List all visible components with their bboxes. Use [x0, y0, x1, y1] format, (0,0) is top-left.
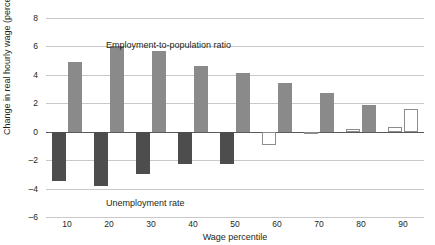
bar-unemployment-rate [94, 132, 109, 186]
bar-employment-population-ratio [68, 62, 83, 132]
bar-unemployment-rate [304, 132, 319, 134]
y-axis-tick: –2 [29, 155, 38, 165]
x-axis-tick: 90 [398, 219, 407, 229]
y-axis-tick: 0 [33, 127, 38, 137]
bar-employment-population-ratio [278, 83, 293, 131]
bar-unemployment-rate [178, 132, 193, 165]
y-axis-tick: 4 [33, 70, 38, 80]
bar-unemployment-rate [136, 132, 151, 175]
bar-group [340, 18, 382, 217]
x-axis-tick: 10 [62, 219, 71, 229]
bar-employment-population-ratio [194, 66, 209, 132]
x-axis-tick: 70 [314, 219, 323, 229]
bar-employment-population-ratio [110, 46, 125, 131]
x-axis-tick: 50 [230, 219, 239, 229]
plot-area: Employment-to-population ratio Unemploym… [46, 18, 424, 217]
x-axis-tick: 20 [104, 219, 113, 229]
y-axis-tick: –4 [29, 184, 38, 194]
y-axis-tick: 6 [33, 41, 38, 51]
x-axis-tick: 60 [272, 219, 281, 229]
bar-group [382, 18, 424, 217]
bar-employment-population-ratio [362, 105, 377, 131]
bar-unemployment-rate [220, 132, 235, 165]
annotation-employment: Employment-to-population ratio [106, 40, 231, 50]
annotation-unemployment: Unemployment rate [106, 198, 185, 208]
bar-unemployment-rate [262, 132, 277, 146]
y-axis-tick: –6 [29, 212, 38, 222]
x-axis-tick-labels: 102030405060708090 [46, 219, 424, 233]
bar-unemployment-rate [52, 132, 67, 182]
bar-employment-population-ratio [152, 51, 167, 131]
gridline [46, 217, 424, 218]
bar-group [256, 18, 298, 217]
y-axis-tick: 8 [33, 13, 38, 23]
x-axis-tick: 30 [146, 219, 155, 229]
bar-employment-population-ratio [236, 73, 251, 132]
chart-figure: Change in real hourly wage (percent) 864… [0, 0, 435, 245]
bar-employment-population-ratio [320, 93, 335, 132]
bar-unemployment-rate [388, 127, 403, 131]
y-axis-tick: 2 [33, 98, 38, 108]
bar-group [46, 18, 88, 217]
bar-unemployment-rate [346, 129, 361, 132]
y-axis-tick-labels: 86420–2–4–6 [0, 18, 42, 217]
x-axis-title: Wage percentile [46, 232, 424, 242]
bar-employment-population-ratio [404, 109, 419, 132]
bar-group [298, 18, 340, 217]
x-axis-tick: 80 [356, 219, 365, 229]
x-axis-tick: 40 [188, 219, 197, 229]
